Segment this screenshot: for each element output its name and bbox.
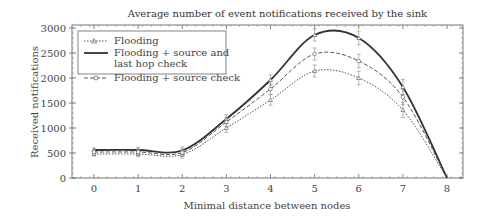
svg-text:0: 0 — [60, 173, 66, 184]
svg-text:1500: 1500 — [41, 98, 66, 109]
legend-source-last-hop: Flooding + source and — [114, 47, 230, 58]
svg-text:5: 5 — [311, 183, 317, 194]
svg-text:3000: 3000 — [41, 23, 66, 34]
svg-text:0: 0 — [91, 183, 97, 194]
svg-text:4: 4 — [267, 183, 273, 194]
svg-text:6: 6 — [356, 183, 362, 194]
line-chart: 012345678050010001500200025003000 Floodi… — [0, 0, 485, 216]
legend: Flooding Flooding + source and last hop … — [78, 31, 241, 83]
svg-text:500: 500 — [47, 148, 66, 159]
svg-text:7: 7 — [400, 183, 406, 194]
svg-text:2500: 2500 — [41, 48, 66, 59]
svg-text:1000: 1000 — [41, 123, 66, 134]
svg-text:1: 1 — [135, 183, 141, 194]
svg-text:3: 3 — [223, 183, 229, 194]
legend-source-check: Flooding + source check — [114, 72, 241, 83]
x-axis-label: Minimal distance between nodes — [183, 200, 350, 211]
legend-source-last-hop-line2: last hop check — [114, 58, 188, 69]
legend-flooding: Flooding — [114, 35, 159, 46]
y-axis-label: Received notifications — [29, 46, 40, 158]
svg-text:2000: 2000 — [41, 73, 66, 84]
svg-text:2: 2 — [179, 183, 185, 194]
svg-text:8: 8 — [444, 183, 450, 194]
